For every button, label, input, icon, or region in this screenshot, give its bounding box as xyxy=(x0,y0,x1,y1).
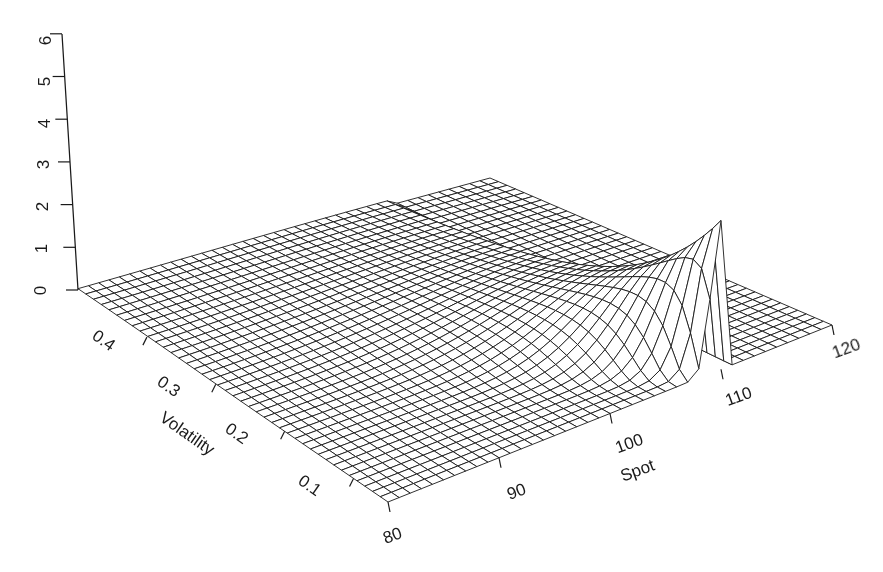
z-tick-label: 6 xyxy=(37,36,54,45)
surface-plot-canvas xyxy=(0,0,883,572)
z-tick-label: 4 xyxy=(36,119,53,128)
z-tick-label: 3 xyxy=(35,160,52,169)
z-tick-label: 2 xyxy=(34,202,51,211)
z-tick-label: 1 xyxy=(33,244,50,253)
z-tick-label: 5 xyxy=(36,77,53,86)
z-tick-label: 0 xyxy=(32,286,49,295)
